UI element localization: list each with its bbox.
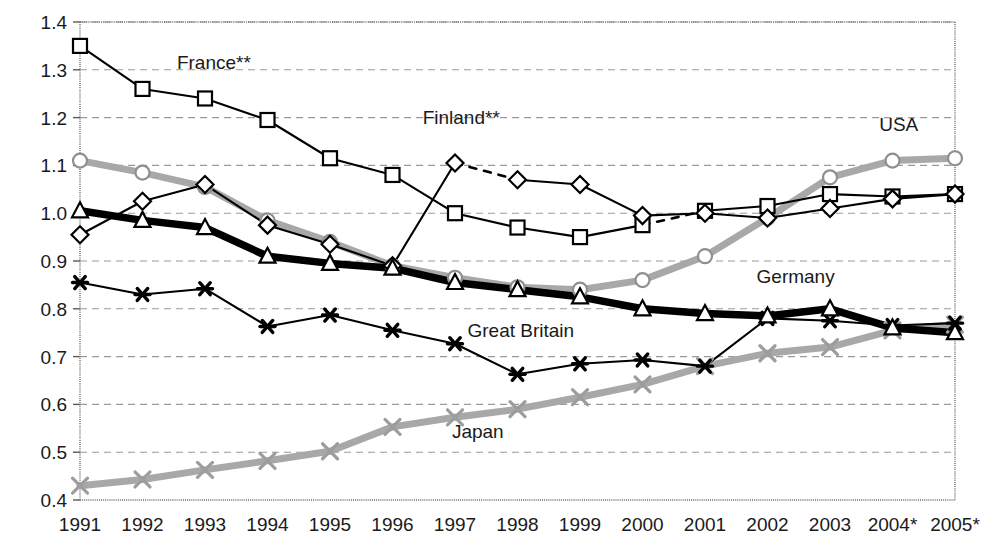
marker-finland bbox=[134, 193, 151, 210]
marker-usa bbox=[948, 151, 962, 165]
series-annotation-great-britain: Great Britain bbox=[468, 320, 575, 341]
marker-usa bbox=[886, 154, 900, 168]
series-annotation-germany: Germany bbox=[757, 266, 836, 287]
y-tick-label: 0.5 bbox=[41, 442, 67, 463]
series-annotations-group: France**Finland**USAGermanyGreat Britain… bbox=[177, 52, 919, 442]
y-tick-label: 1.2 bbox=[41, 108, 67, 129]
marker-france bbox=[323, 151, 337, 165]
y-tick-label: 1.4 bbox=[41, 12, 68, 33]
x-tick-label: 2005* bbox=[930, 514, 980, 535]
line-chart-svg: 0.40.50.60.70.80.91.01.11.21.31.4 199119… bbox=[0, 0, 981, 558]
marker-france bbox=[136, 82, 150, 96]
y-tick-label: 0.9 bbox=[41, 251, 67, 272]
x-tick-label: 1998 bbox=[496, 514, 538, 535]
x-tick-label: 1994 bbox=[246, 514, 289, 535]
y-tick-label: 1.1 bbox=[41, 155, 67, 176]
y-tick-label: 1.3 bbox=[41, 60, 67, 81]
marker-usa bbox=[823, 170, 837, 184]
marker-france bbox=[511, 221, 525, 235]
y-tick-label: 0.7 bbox=[41, 347, 67, 368]
marker-finland bbox=[509, 171, 526, 188]
x-tick-label: 1991 bbox=[59, 514, 101, 535]
marker-france bbox=[573, 230, 587, 244]
series-annotation-usa: USA bbox=[879, 114, 918, 135]
series-line-france bbox=[80, 46, 643, 237]
x-tick-label: 1995 bbox=[309, 514, 351, 535]
x-tick-label: 1999 bbox=[559, 514, 601, 535]
marker-usa bbox=[698, 249, 712, 263]
x-tick-label: 1997 bbox=[434, 514, 476, 535]
marker-usa bbox=[136, 166, 150, 180]
series-annotation-japan: Japan bbox=[452, 421, 504, 442]
y-tick-label: 0.6 bbox=[41, 394, 67, 415]
gridlines-group bbox=[80, 22, 955, 452]
marker-france bbox=[386, 168, 400, 182]
ytick-labels-group: 0.40.50.60.70.80.91.01.11.21.31.4 bbox=[41, 12, 68, 511]
y-tick-label: 0.8 bbox=[41, 299, 67, 320]
marker-usa bbox=[636, 273, 650, 287]
marker-finland bbox=[72, 226, 89, 243]
x-tick-label: 2000 bbox=[621, 514, 663, 535]
chart-container: 0.40.50.60.70.80.91.01.11.21.31.4 199119… bbox=[0, 0, 981, 558]
marker-finland bbox=[447, 155, 464, 172]
x-tick-label: 2002 bbox=[746, 514, 788, 535]
marker-usa bbox=[73, 154, 87, 168]
marker-france bbox=[198, 91, 212, 105]
y-tick-label: 1.0 bbox=[41, 203, 67, 224]
x-tick-label: 2001 bbox=[684, 514, 726, 535]
series-annotation-finland: Finland** bbox=[423, 107, 501, 128]
marker-france bbox=[73, 39, 87, 53]
x-tick-label: 2004* bbox=[868, 514, 918, 535]
xtick-labels-group: 1991199219931994199519961997199819992000… bbox=[59, 514, 981, 535]
marker-france bbox=[261, 113, 275, 127]
y-tick-label: 0.4 bbox=[41, 490, 68, 511]
x-tick-label: 2003 bbox=[809, 514, 851, 535]
marker-finland bbox=[822, 200, 839, 217]
x-tick-label: 1993 bbox=[184, 514, 226, 535]
series-annotation-france: France** bbox=[177, 52, 252, 73]
marker-finland bbox=[572, 176, 589, 193]
marker-france bbox=[448, 206, 462, 220]
x-tick-label: 1992 bbox=[121, 514, 163, 535]
x-tick-label: 1996 bbox=[371, 514, 413, 535]
